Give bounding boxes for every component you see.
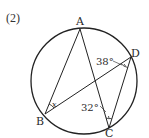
tick-d xyxy=(124,64,126,66)
tick-c xyxy=(109,116,110,119)
segment-ac xyxy=(80,29,109,128)
point-label-b: B xyxy=(36,115,44,128)
leader-38 xyxy=(113,61,122,65)
segment-ab xyxy=(45,29,80,114)
angle-label-32: 32° xyxy=(81,102,99,113)
point-label-a: A xyxy=(75,15,85,28)
geometry-diagram: A B C D 38° 32° x xyxy=(0,0,149,138)
angle-label-x: x xyxy=(52,100,57,109)
point-label-c: C xyxy=(105,127,113,138)
point-label-d: D xyxy=(131,47,140,60)
angle-label-38: 38° xyxy=(96,56,114,67)
